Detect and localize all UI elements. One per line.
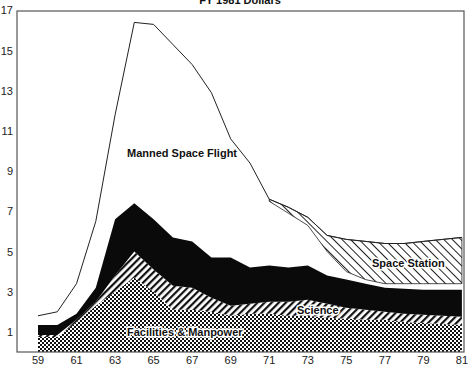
x-tick-label: 67 xyxy=(186,354,198,365)
label-science: Science xyxy=(297,304,339,316)
y-tick-label: 1 xyxy=(7,326,13,338)
x-tick-label: 61 xyxy=(70,354,82,365)
stacked-area-chart: FY 1981 Dollars 1357911131517 5961636567… xyxy=(0,0,472,365)
y-tick-label: 5 xyxy=(7,246,13,258)
x-tick-label: 65 xyxy=(147,354,159,365)
y-tick-label: 13 xyxy=(1,85,13,97)
y-axis: 1357911131517 xyxy=(1,4,13,338)
label-manned-space-flight: Manned Space Flight xyxy=(127,147,237,159)
x-tick-label: 79 xyxy=(417,354,429,365)
y-tick-label: 15 xyxy=(1,45,13,57)
x-tick-label: 77 xyxy=(379,354,391,365)
x-tick-label: 69 xyxy=(225,354,237,365)
y-tick-label: 17 xyxy=(1,4,13,16)
x-tick-label: 75 xyxy=(340,354,352,365)
x-axis: 596163656769717375777981 xyxy=(32,354,468,365)
y-tick-label: 11 xyxy=(2,125,13,137)
plot-areas xyxy=(38,22,462,352)
y-tick-label: 7 xyxy=(7,205,13,217)
chart-title: FY 1981 Dollars xyxy=(199,0,281,6)
x-tick-label: 81 xyxy=(456,354,468,365)
label-space-station: Space Station xyxy=(372,257,445,269)
y-tick-label: 3 xyxy=(7,286,13,298)
x-tick-label: 73 xyxy=(302,354,314,365)
y-tick-label: 9 xyxy=(7,165,13,177)
x-tick-label: 63 xyxy=(109,354,121,365)
x-tick-label: 71 xyxy=(263,354,275,365)
x-tick-label: 59 xyxy=(32,354,44,365)
label-facilities-manpower: Facilities & Manpower xyxy=(127,326,243,338)
